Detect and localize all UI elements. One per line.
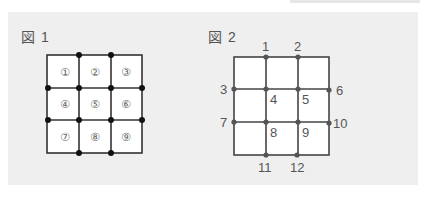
cell-4: ④ — [60, 98, 70, 111]
point-2: 2 — [294, 39, 301, 54]
cell-8: ⑧ — [90, 131, 100, 144]
cell-2: ② — [90, 66, 100, 79]
cell-3: ③ — [121, 66, 131, 79]
point-12: 12 — [290, 160, 304, 175]
cell-5: ⑤ — [90, 98, 100, 111]
point-8: 8 — [270, 125, 277, 140]
figure1-grid: ① ② ③ ④ ⑤ ⑥ ⑦ ⑧ ⑨ — [45, 52, 145, 156]
diagram-canvas: ① ② ③ ④ ⑤ ⑥ ⑦ ⑧ ⑨ 1 2 3 4 5 6 — [0, 0, 431, 197]
cell-7: ⑦ — [60, 131, 70, 144]
point-4: 4 — [270, 92, 277, 107]
point-10: 10 — [333, 116, 347, 131]
cell-9: ⑨ — [121, 131, 131, 144]
cell-6: ⑥ — [121, 98, 131, 111]
point-7: 7 — [220, 115, 227, 130]
point-11: 11 — [258, 160, 272, 175]
point-6: 6 — [336, 83, 343, 98]
figure2-grid: 1 2 3 4 5 6 7 8 9 10 11 12 — [220, 39, 347, 175]
point-3: 3 — [220, 82, 227, 97]
point-5: 5 — [302, 92, 309, 107]
point-1: 1 — [262, 39, 269, 54]
point-9: 9 — [302, 125, 309, 140]
cell-1: ① — [60, 66, 70, 79]
